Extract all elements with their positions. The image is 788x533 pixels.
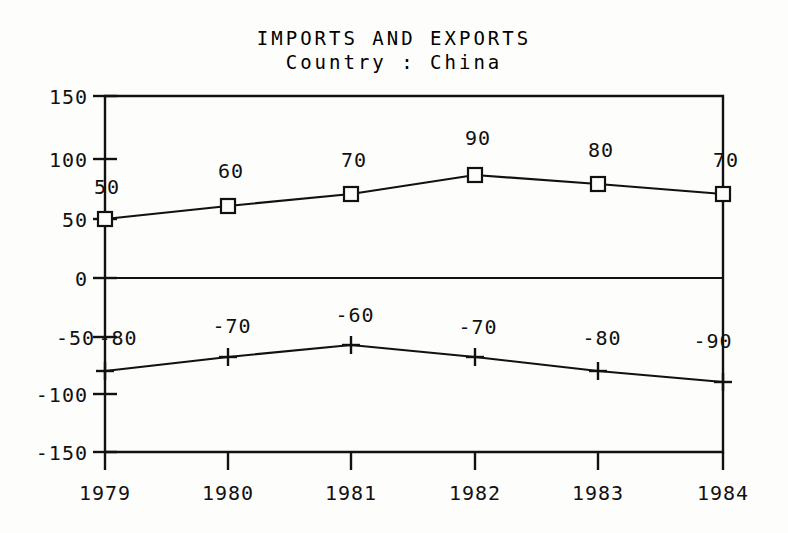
datalabel-exports-1980: 60 [218,159,244,183]
marker-imports-1982 [466,348,484,366]
series-datalabels-imports: -80 -70 -60 -70 -80 -90 [98,303,732,353]
x-axis-ticks [105,452,723,470]
x-axis-labels: 1979 1980 1981 1982 1983 1984 [79,481,749,505]
datalabel-exports-1979: 50 [94,175,120,199]
datalabel-imports-1984: -90 [693,329,732,353]
y-axis-label-neg100: -100 [36,383,88,407]
marker-imports-1981 [342,336,360,354]
datalabel-exports-1984: 70 [713,148,739,172]
marker-imports-1980 [219,348,237,366]
series-line-exports [105,175,723,219]
x-axis-label-1981: 1981 [325,481,377,505]
marker-exports-1981 [344,187,358,201]
chart-page: IMPORTS AND EXPORTS Country : China [0,0,788,533]
y-axis-label-100: 100 [49,148,88,172]
marker-imports-1979 [96,362,114,380]
marker-exports-1980 [221,199,235,213]
series-markers-imports [96,336,732,391]
datalabel-imports-1979: -80 [98,326,137,350]
y-axis-label-50: 50 [62,208,88,232]
x-axis-label-1980: 1980 [202,481,254,505]
marker-exports-1979 [98,212,112,226]
series-markers-exports [98,168,730,226]
marker-exports-1982 [468,168,482,182]
marker-imports-1983 [589,362,607,380]
marker-exports-1983 [591,177,605,191]
datalabel-imports-1981: -60 [335,303,374,327]
x-axis-label-1982: 1982 [449,481,501,505]
series-line-imports [105,345,723,382]
x-axis-label-1984: 1984 [697,481,749,505]
marker-exports-1984 [716,187,730,201]
datalabel-imports-1983: -80 [582,326,621,350]
marker-imports-1984 [714,373,732,391]
datalabel-imports-1982: -70 [458,315,497,339]
y-axis-label-0: 0 [75,267,88,291]
datalabel-exports-1982: 90 [465,126,491,150]
y-axis-label-neg50: -50 [56,326,95,350]
plot-frame [105,96,723,452]
y-axis-label-150: 150 [49,85,88,109]
y-axis-labels: 150 100 50 0 -50 -100 -150 [36,85,95,465]
x-axis-label-1983: 1983 [572,481,624,505]
datalabel-exports-1983: 80 [588,138,614,162]
x-axis-label-1979: 1979 [79,481,131,505]
datalabel-imports-1980: -70 [212,314,251,338]
chart-canvas: 150 100 50 0 -50 -100 -150 1979 1980 198… [0,0,788,533]
y-axis-label-neg150: -150 [36,441,88,465]
datalabel-exports-1981: 70 [341,148,367,172]
